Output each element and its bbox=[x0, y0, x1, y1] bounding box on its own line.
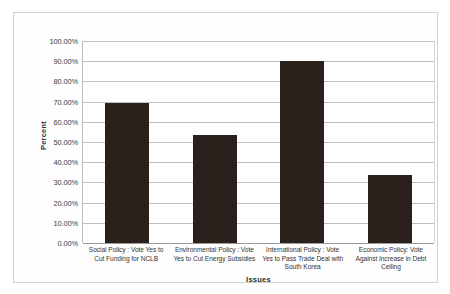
x-axis-category-label: Economic Policy: Vote Against Increase i… bbox=[347, 246, 435, 272]
x-axis-title: Issues bbox=[82, 275, 435, 284]
x-axis-category-labels: Social Policy : Vote Yes to Cut Funding … bbox=[82, 246, 435, 272]
y-axis-tick-label: 30.00% bbox=[54, 178, 78, 187]
y-axis-tick-label: 100.00% bbox=[50, 37, 78, 46]
bar-slot bbox=[259, 41, 347, 243]
y-axis-tick-label: 70.00% bbox=[54, 97, 78, 106]
bar-slot bbox=[83, 41, 171, 243]
bar[interactable] bbox=[280, 61, 324, 243]
bar[interactable] bbox=[193, 135, 237, 243]
y-axis-tick-label: 50.00% bbox=[54, 138, 78, 147]
bar[interactable] bbox=[368, 175, 412, 243]
y-axis-tick-label: 80.00% bbox=[54, 77, 78, 86]
y-axis-tick-labels: 100.00%90.00%80.00%70.00%60.00%50.00%40.… bbox=[32, 41, 78, 243]
bar-series bbox=[83, 41, 434, 243]
plot-area bbox=[82, 41, 435, 243]
bar[interactable] bbox=[105, 103, 149, 243]
y-axis-tick-label: 20.00% bbox=[54, 198, 78, 207]
y-axis-tick-label: 10.00% bbox=[54, 218, 78, 227]
y-axis-tick-label: 40.00% bbox=[54, 158, 78, 167]
gridline bbox=[83, 243, 434, 244]
x-axis-category-label: Social Policy : Vote Yes to Cut Funding … bbox=[82, 246, 170, 272]
bar-slot bbox=[171, 41, 259, 243]
y-axis-tick-label: 90.00% bbox=[54, 57, 78, 66]
x-axis-category-label: International Policy : Vote Yes to Pass … bbox=[259, 246, 347, 272]
y-axis-tick-label: 0.00% bbox=[58, 239, 78, 248]
x-axis-category-label: Environmental Policy : Vote Yes to Cut E… bbox=[170, 246, 258, 272]
bar-slot bbox=[346, 41, 434, 243]
y-axis-tick-label: 60.00% bbox=[54, 117, 78, 126]
chart-frame: Percent 100.00%90.00%80.00%70.00%60.00%5… bbox=[13, 12, 438, 283]
